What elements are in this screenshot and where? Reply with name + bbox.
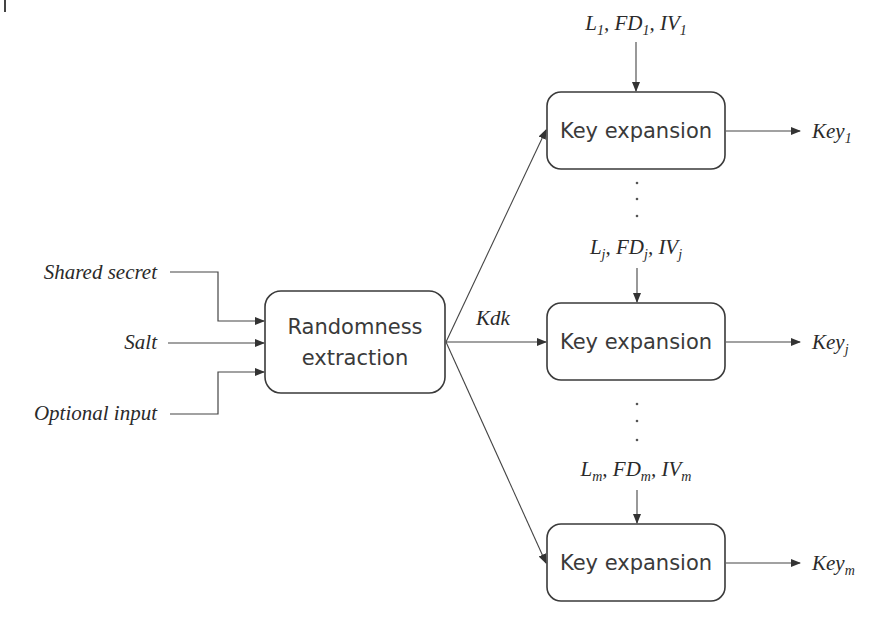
key-expansion-label-1: Key expansion xyxy=(560,119,712,143)
ellipsis-j-m xyxy=(636,403,639,442)
key-expansion-box-m: Key expansion xyxy=(547,524,725,601)
key-expansion-box-j: Key expansion xyxy=(547,303,725,380)
params-1: L1, FD1, IV1 xyxy=(584,11,687,38)
params-m: Lm, FDm, IVm xyxy=(580,457,692,484)
arrow-shared-secret xyxy=(170,272,264,321)
params-j: Lj, FDj, IVj xyxy=(589,235,682,262)
input-salt: Salt xyxy=(124,330,158,354)
extractor-label-line1: Randomness xyxy=(287,315,422,339)
input-shared-secret: Shared secret xyxy=(44,260,158,284)
arrow-optional-input xyxy=(170,372,264,414)
randomness-extraction-box: Randomness extraction xyxy=(265,291,445,393)
key-expansion-label-j: Key expansion xyxy=(560,330,712,354)
hkdf-diagram: Shared secret Salt Optional input Random… xyxy=(0,0,887,624)
input-optional: Optional input xyxy=(34,401,158,425)
output-key-1: Key1 xyxy=(811,119,852,146)
ellipsis-1-j xyxy=(636,182,639,218)
extractor-label-line2: extraction xyxy=(302,346,409,370)
output-key-m: Keym xyxy=(811,551,855,578)
arrow-kdk-to-expansion-m xyxy=(446,342,546,563)
output-key-j: Keyj xyxy=(811,330,849,357)
kdk-label: Kdk xyxy=(475,306,511,330)
key-expansion-label-m: Key expansion xyxy=(560,551,712,575)
key-expansion-box-1: Key expansion xyxy=(547,92,725,169)
